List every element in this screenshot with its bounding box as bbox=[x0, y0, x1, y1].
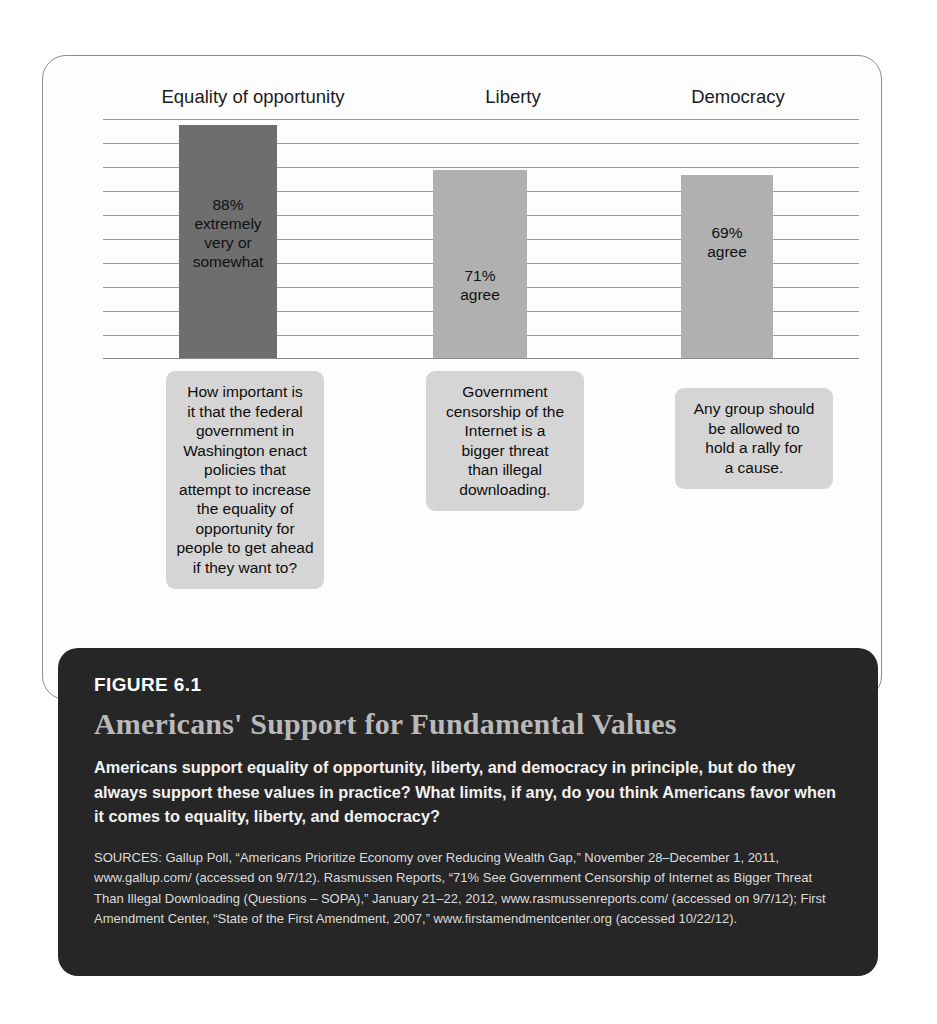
figure-chart-card: Equality of opportunity Liberty Democrac… bbox=[42, 55, 882, 700]
figure-caption-panel: FIGURE 6.1 Americans' Support for Fundam… bbox=[58, 648, 878, 976]
figure-title: Americans' Support for Fundamental Value… bbox=[94, 707, 842, 741]
gridline bbox=[103, 119, 859, 120]
figure-number: FIGURE 6.1 bbox=[94, 674, 842, 696]
figure-description: Americans support equality of opportunit… bbox=[94, 755, 842, 829]
chart-baseline bbox=[103, 358, 859, 359]
callout-liberty: Government censorship of the Internet is… bbox=[426, 371, 584, 511]
bar-value-label-democracy: 69% agree bbox=[703, 223, 751, 261]
column-header-democracy: Democracy bbox=[623, 86, 853, 108]
bar-equality-of-opportunity: 88% extremely very or somewhat bbox=[179, 125, 277, 358]
bar-liberty: 71% agree bbox=[433, 170, 527, 358]
column-header-equality: Equality of opportunity bbox=[103, 86, 403, 108]
column-header-liberty: Liberty bbox=[403, 86, 623, 108]
callout-equality-of-opportunity: How important is it that the federal gov… bbox=[166, 371, 324, 589]
bar-chart-plot-area: 88% extremely very or somewhat 71% agree… bbox=[103, 119, 859, 359]
figure-sources: SOURCES: Gallup Poll, “Americans Priorit… bbox=[94, 848, 842, 930]
callout-democracy: Any group should be allowed to hold a ra… bbox=[675, 388, 833, 489]
bar-democracy: 69% agree bbox=[681, 175, 773, 358]
bar-value-label-liberty: 71% agree bbox=[456, 266, 504, 304]
bar-value-label-equality: 88% extremely very or somewhat bbox=[189, 195, 268, 271]
